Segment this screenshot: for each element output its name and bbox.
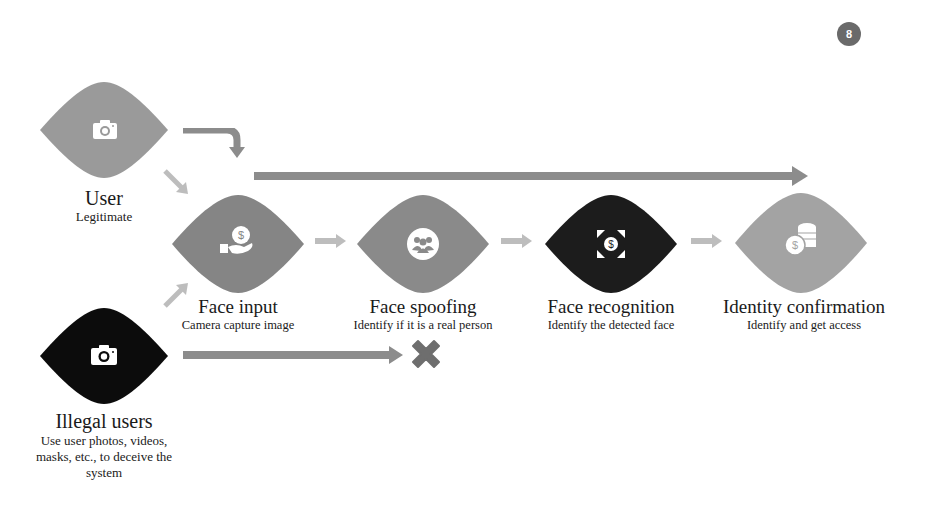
coins-icon: $ [783, 221, 819, 257]
user-subtitle: Legitimate [44, 209, 164, 224]
identity-confirmation-node: $ [733, 191, 869, 295]
elbow-arrow [183, 128, 247, 164]
step-title: Face spoofing [343, 297, 503, 317]
user-title: User [64, 188, 144, 208]
flow-arrow [501, 234, 533, 252]
step-subtitle: Identify and get access [716, 318, 892, 333]
flow-arrow [691, 234, 723, 252]
step-subtitle: Identify if it is a real person [323, 318, 523, 333]
step-title: Face recognition [521, 297, 701, 317]
bypass-arrow [254, 166, 810, 190]
face-recognition-node: $ [543, 193, 679, 295]
illegal-user-node [38, 306, 170, 406]
illegal-title: Illegal users [34, 411, 174, 431]
face-input-node: $ [170, 193, 306, 295]
illegal-subtitle-line: Use user photos, videos, [14, 433, 194, 448]
step-subtitle: Identify the detected face [521, 318, 701, 333]
page-number-badge: 8 [837, 22, 861, 46]
step-title: Face input [158, 297, 318, 317]
step-subtitle: Camera capture image [148, 318, 328, 333]
money-expand-icon: $ [597, 230, 625, 258]
face-spoofing-node [355, 193, 491, 295]
illegal-subtitle-line: masks, etc., to deceive the [14, 449, 194, 464]
user-node [38, 80, 170, 180]
illegal-subtitle-line: system [14, 465, 194, 480]
hand-money-icon: $ [218, 225, 256, 257]
camera-icon [93, 120, 117, 139]
step-title: Identity confirmation [706, 297, 902, 317]
svg-text:$: $ [608, 239, 614, 250]
flow-arrow [315, 234, 347, 252]
svg-text:$: $ [238, 229, 244, 241]
cross-icon [409, 337, 443, 375]
blocked-arrow [183, 346, 405, 368]
group-icon [407, 228, 439, 260]
camera-icon [91, 345, 117, 365]
svg-text:$: $ [792, 239, 798, 251]
